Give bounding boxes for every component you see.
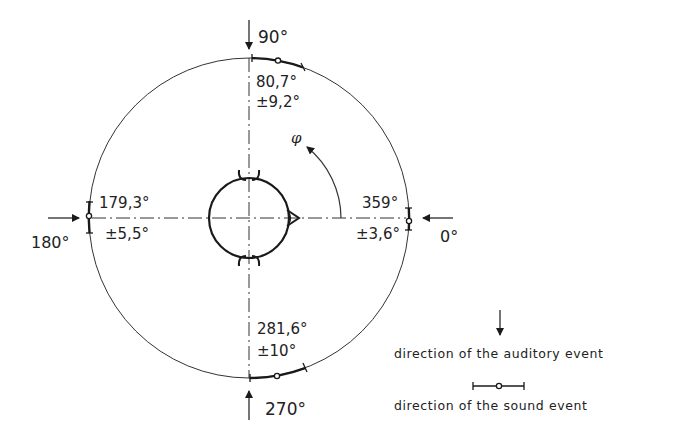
auditory-spread-0: ±3,6° [356,225,400,243]
auditory-mean-270: 281,6° [257,320,307,338]
auditory-spread-180: ±5,5° [105,225,149,243]
auditory-spread-270: ±10° [257,342,296,360]
auditory-mean-90: 80,7° [256,73,297,91]
error-bar-180 [86,201,93,233]
error-bar-0 [405,208,412,230]
phi-angle-arc [307,147,341,218]
legend-auditory-event: direction of the auditory event [394,346,604,361]
sound-event-label-270: 270° [265,400,306,418]
sound-event-label-90: 90° [258,28,288,46]
sound-event-label-180: 180° [31,234,70,252]
auditory-spread-90: ±9,2° [256,93,300,111]
phi-symbol: φ [291,129,302,147]
localization-diagram [0,0,676,442]
sound-event-label-0: 0° [440,228,458,246]
legend-error-bar-icon [473,382,524,390]
legend-sound-event: direction of the sound event [394,398,588,413]
auditory-mean-180: 179,3° [99,194,149,212]
error-bar-90 [252,54,305,71]
error-bar-270 [250,363,307,382]
auditory-mean-0: 359° [362,194,398,212]
